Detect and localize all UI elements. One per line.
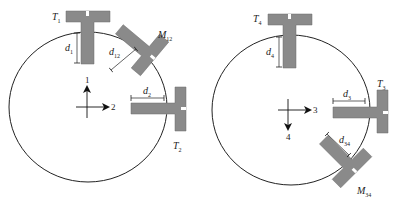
label-d3: d3 [343,88,351,101]
axis-label-3: 3 [313,105,318,115]
right-panel: T4 d4 T3 d3 M34 d34 [212,13,388,198]
label-d2: d2 [143,85,151,98]
left-panel: T1 d1 M12 d12 T2 d2 [9,11,186,182]
sensor-t3 [333,90,388,133]
right-axes: 3 4 [278,99,318,142]
axis-label-1: 1 [85,75,90,85]
label-t3: T3 [377,78,386,91]
label-t4: T4 [253,13,262,26]
axis-label-2: 2 [111,102,116,112]
label-d1: d1 [65,42,73,55]
label-m34: M34 [356,185,371,198]
axis-label-4: 4 [286,132,291,142]
sensor-t4 [268,14,312,68]
diagram-canvas: T1 d1 M12 d12 T2 d2 [0,0,397,202]
sensor-t1 [66,11,110,64]
label-d34: d34 [339,134,350,147]
label-t2: T2 [173,140,182,153]
sensor-t2 [131,87,186,131]
label-d4: d4 [266,46,274,59]
left-axes: 1 2 [76,75,116,118]
label-t1: T1 [52,11,61,24]
label-d12: d12 [109,46,120,59]
sensor-m12 [105,12,169,75]
